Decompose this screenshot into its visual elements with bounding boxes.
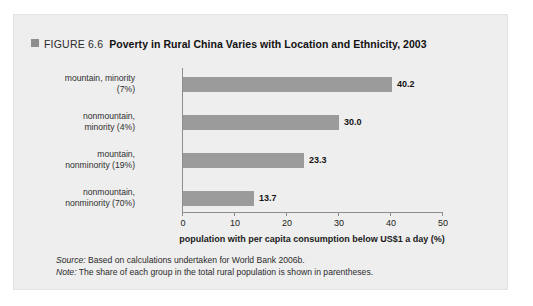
x-tick-label-2: 20 xyxy=(272,218,302,228)
x-tick-label-5: 50 xyxy=(428,218,458,228)
category-label-3-line-0: nonmountain, xyxy=(19,187,135,198)
category-label-1: nonmountain, minority (4%) xyxy=(19,111,135,132)
category-label-3: nonmountain, nonminority (70%) xyxy=(19,187,135,208)
footnote-source-text: Based on calculations undertaken for Wor… xyxy=(86,255,305,265)
bar-value-1: 30.0 xyxy=(344,115,362,130)
category-label-2: mountain, nonminority (19%) xyxy=(19,149,135,170)
footnote-note-text: The share of each group in the total rur… xyxy=(77,267,374,277)
x-tick-label-0: 0 xyxy=(168,218,198,228)
bar-value-2: 23.3 xyxy=(309,153,327,168)
x-tick-mark-0 xyxy=(182,212,183,216)
category-label-0-line-1: (7%) xyxy=(19,84,135,95)
bar-value-0: 40.2 xyxy=(397,77,415,92)
bar-2 xyxy=(183,153,304,168)
x-axis-line xyxy=(182,212,443,213)
bar-value-3: 13.7 xyxy=(259,191,277,206)
bar-0 xyxy=(183,77,392,92)
x-tick-label-4: 40 xyxy=(376,218,406,228)
x-tick-mark-1 xyxy=(234,212,235,216)
x-tick-mark-5 xyxy=(442,212,443,216)
bar-3 xyxy=(183,191,254,206)
category-label-0: mountain, minority (7%) xyxy=(19,73,135,94)
footnote-note-label: Note: xyxy=(56,267,77,277)
x-axis-title: population with per capita consumption b… xyxy=(162,234,462,244)
x-tick-mark-2 xyxy=(286,212,287,216)
figure-panel: FIGURE 6.6 Poverty in Rural China Varies… xyxy=(13,14,508,290)
category-label-3-line-1: nonminority (70%) xyxy=(19,198,135,209)
x-tick-label-1: 10 xyxy=(220,218,250,228)
footnote-source-label: Source: xyxy=(56,255,86,265)
x-tick-label-3: 30 xyxy=(324,218,354,228)
bar-1 xyxy=(183,115,339,130)
category-label-2-line-0: mountain, xyxy=(19,149,135,160)
category-label-2-line-1: nonminority (19%) xyxy=(19,160,135,171)
x-tick-mark-3 xyxy=(338,212,339,216)
category-label-1-line-1: minority (4%) xyxy=(19,122,135,133)
category-label-1-line-0: nonmountain, xyxy=(19,111,135,122)
category-label-0-line-0: mountain, minority xyxy=(19,73,135,84)
bar-chart: mountain, minority (7%) nonmountain, min… xyxy=(14,15,509,291)
x-tick-mark-4 xyxy=(390,212,391,216)
footnote-source: Source: Based on calculations undertaken… xyxy=(56,255,305,266)
footnote-note: Note: The share of each group in the tot… xyxy=(56,267,373,278)
